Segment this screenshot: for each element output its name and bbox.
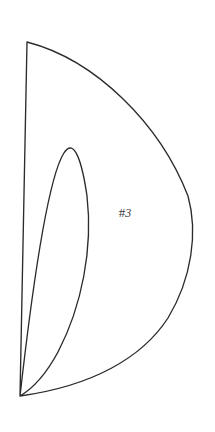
shape-label: #3 [105,205,145,221]
shape-label-number: 3 [125,206,131,220]
figure-canvas: #3 [0,0,215,432]
